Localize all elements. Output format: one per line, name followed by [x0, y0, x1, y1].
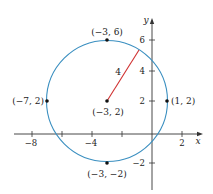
- bottom-point: [105, 161, 109, 165]
- left-point: [45, 99, 49, 103]
- center-point-label: (−3, 2): [92, 107, 124, 117]
- y-tick-label: 4: [140, 66, 145, 76]
- y-axis-arrow-icon: [150, 18, 154, 24]
- coordinate-plane: −8 −4 2 x 6 4 2 −2 y 4 (−3, 2) (−3, 6) (…: [0, 0, 213, 194]
- center-point: [105, 99, 109, 103]
- y-tick-label: −2: [132, 158, 145, 168]
- bottom-point-label: (−3, −2): [87, 169, 126, 179]
- y-tick-label: 2: [140, 96, 145, 106]
- left-point-label: (−7, 2): [12, 96, 44, 106]
- y-tick-label: 6: [140, 35, 145, 45]
- radius-label: 4: [115, 67, 121, 77]
- right-point-label: (1, 2): [171, 96, 195, 106]
- x-axis-label: x: [195, 136, 200, 146]
- right-point: [165, 99, 169, 103]
- x-tick-label: −4: [85, 138, 98, 148]
- y-axis-label: y: [142, 15, 149, 25]
- top-point-label: (−3, 6): [91, 27, 123, 37]
- top-point: [105, 38, 109, 42]
- x-tick-label: 2: [179, 138, 184, 148]
- x-tick-label: −8: [25, 138, 38, 148]
- radius-segment: [107, 50, 139, 101]
